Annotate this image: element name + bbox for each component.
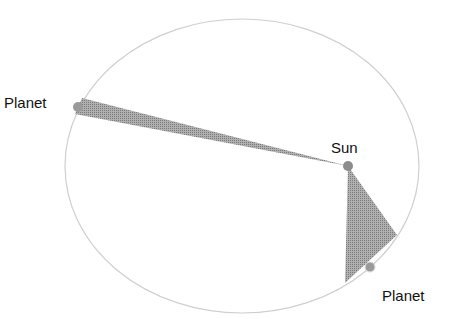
swept-area-left [75,98,348,166]
planet-right-label: Planet [382,287,425,304]
planet-left-body [73,102,83,112]
sun-label: Sun [331,139,358,156]
orbit-diagram: Planet Sun Planet [0,0,457,319]
planet-right-body [365,262,375,272]
planet-left-label: Planet [4,94,47,111]
sun-body [343,161,353,171]
